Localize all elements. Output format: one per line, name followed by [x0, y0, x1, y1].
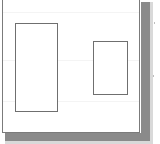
- speck-upper: [154, 22, 155, 24]
- screenshot-canvas: [0, 0, 160, 144]
- page-shadow-soft-bottom: [5, 141, 153, 144]
- large-rectangle: [15, 23, 58, 112]
- speck-lower: [153, 75, 154, 77]
- page-shadow-right: [141, 2, 150, 141]
- scan-band-1: [3, 12, 139, 13]
- scanned-page: [2, 0, 140, 133]
- small-rectangle: [93, 41, 128, 95]
- page-shadow-soft-right: [150, 2, 153, 141]
- page-shadow-bottom: [5, 133, 150, 141]
